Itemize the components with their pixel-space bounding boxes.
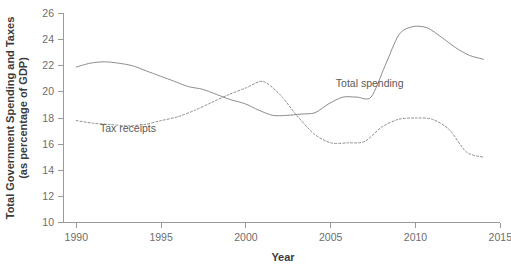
x-tick-label: 2000 (234, 231, 258, 243)
x-tick-label: 1990 (65, 231, 89, 243)
y-tick-label: 24 (42, 33, 54, 45)
y-tick-label: 14 (42, 164, 54, 176)
x-tick-label: 1995 (149, 231, 173, 243)
y-tick-label: 26 (42, 7, 54, 19)
y-axis-title-line1: Total Government Spending and Taxes (4, 17, 16, 220)
y-tick-label: 16 (42, 138, 54, 150)
annotation-tax-receipts: Tax receipts (100, 122, 156, 134)
x-tick-label: 2015 (489, 231, 511, 243)
x-tick-label: 2005 (319, 231, 343, 243)
x-tick-label: 2010 (404, 231, 428, 243)
y-tick-label: 22 (42, 59, 54, 71)
y-tick-label: 20 (42, 85, 54, 97)
chart-container: 26 24 22 20 18 16 14 12 10 1990 1995 (0, 0, 511, 267)
y-tick-label: 12 (42, 190, 54, 202)
y-axis-title-line2: (as percentage of GDP) (17, 57, 29, 179)
x-axis-title: Year (271, 251, 295, 263)
line-chart: 26 24 22 20 18 16 14 12 10 1990 1995 (0, 0, 511, 267)
y-tick-label: 18 (42, 112, 54, 124)
annotation-total-spending: Total spending (336, 77, 404, 89)
y-tick-label: 10 (42, 216, 54, 228)
